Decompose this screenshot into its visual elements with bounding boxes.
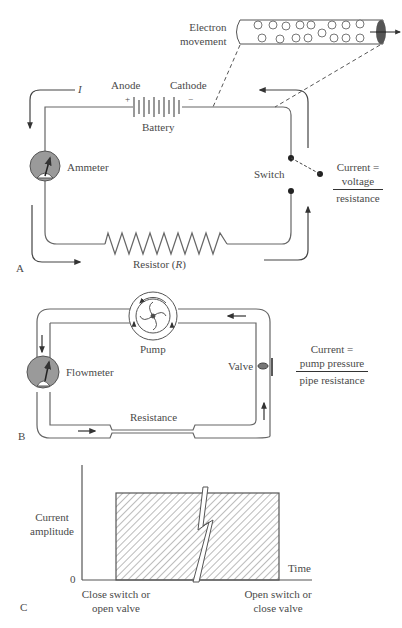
end-event-label: Open switch or close valve [242, 587, 314, 615]
pump-label: Pump [140, 343, 166, 356]
circuit-wire [45, 107, 133, 154]
end-event-line1: Open switch or [244, 588, 311, 600]
ammeter-icon [30, 151, 60, 181]
y-axis-label: Current amplitude [28, 510, 76, 538]
y-origin-label: 0 [70, 573, 76, 586]
ohms-law-equation: Current = voltage resistance [333, 160, 383, 205]
anode-label: Anode [111, 79, 140, 92]
cathode-sign: − [188, 93, 193, 106]
y-axis-label-line1: Current [35, 511, 69, 523]
y-axis-label-line2: amplitude [30, 525, 74, 537]
panel-b-letter: B [18, 430, 25, 443]
battery-label: Battery [142, 121, 174, 134]
equation-numerator: voltage [333, 174, 383, 190]
valve-label: Valve [228, 360, 253, 373]
panel-c-chart [82, 465, 312, 582]
resistor-label: Resistor (R) [133, 258, 186, 271]
start-event-line2: open valve [92, 602, 140, 614]
equation-denominator: resistance [333, 190, 383, 205]
switch-label: Switch [254, 168, 285, 181]
resistance-label: Resistance [130, 411, 177, 424]
x-axis-label: Time [288, 562, 311, 575]
switch-icon [288, 155, 323, 194]
pump-icon [129, 292, 177, 340]
flow-equation-lhs: Current = [296, 342, 368, 356]
flow-equation-numerator: pump pressure [296, 356, 368, 372]
electron-label-line1: Electron [189, 21, 226, 33]
cathode-label: Cathode [170, 79, 207, 92]
electron-label-line2: movement [180, 35, 226, 47]
equation-lhs: Current = [333, 160, 383, 174]
end-event-line2: close valve [253, 602, 302, 614]
resistor-label-end: ) [182, 258, 186, 270]
flowmeter-label: Flowmeter [66, 366, 114, 379]
panel-a-letter: A [16, 262, 24, 275]
flowmeter-icon [27, 356, 59, 388]
flow-equation-denominator: pipe resistance [296, 372, 368, 387]
ammeter-label: Ammeter [67, 161, 109, 174]
flow-equation: Current = pump pressure pipe resistance [296, 342, 368, 387]
current-symbol: I [78, 83, 82, 96]
resistor-label-text: Resistor ( [133, 258, 175, 270]
anode-sign: + [125, 93, 130, 106]
start-event-label: Close switch or open valve [80, 587, 152, 615]
electron-movement-label: Electron movement [180, 20, 226, 48]
resistor-icon [105, 233, 227, 254]
panel-c-letter: C [20, 601, 27, 614]
battery-icon [134, 97, 179, 117]
start-event-line1: Close switch or [82, 588, 150, 600]
